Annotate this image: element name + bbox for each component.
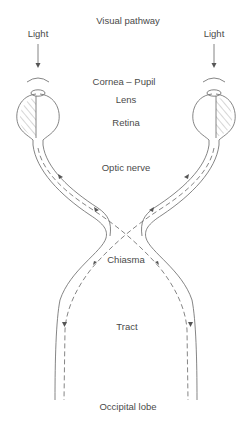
left-eye <box>17 78 59 145</box>
occipital-lobe-label: Occipital lobe <box>99 402 156 412</box>
light-arrow-right <box>212 44 217 68</box>
right-lens <box>207 90 221 96</box>
optic-nerve-outline <box>33 145 219 400</box>
diagram-title: Visual pathway <box>96 16 160 26</box>
fibre-arrows <box>58 174 193 327</box>
tract-label: Tract <box>116 322 137 332</box>
left-lens <box>31 90 45 96</box>
light-arrow-left <box>36 44 41 68</box>
right-cornea <box>203 78 225 82</box>
cornea-pupil-label: Cornea – Pupil <box>93 77 156 87</box>
light-label-right: Light <box>204 29 225 39</box>
visual-pathway-diagram: Visual pathway Light Light Cornea – Pupi… <box>0 0 242 422</box>
light-label-left: Light <box>28 29 49 39</box>
diagram-drawing <box>0 0 242 422</box>
lens-label: Lens <box>116 95 137 105</box>
visual-fibres <box>38 148 214 400</box>
chiasma-label: Chiasma <box>107 255 145 265</box>
retina-label: Retina <box>112 118 139 128</box>
left-cornea <box>27 78 49 82</box>
optic-nerve-label: Optic nerve <box>102 163 151 173</box>
right-eye <box>193 78 235 145</box>
